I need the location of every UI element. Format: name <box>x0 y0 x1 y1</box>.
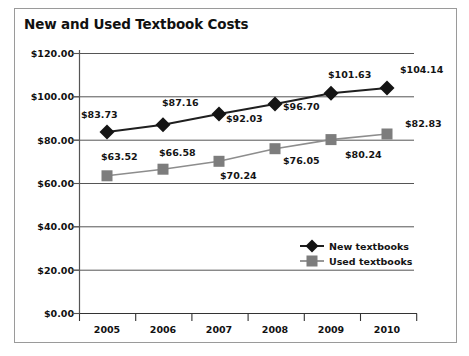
y-axis-tick-label: $40.00 <box>16 221 74 232</box>
y-axis-tick-label: $60.00 <box>16 178 74 189</box>
data-label-used-2009: $80.24 <box>345 149 382 160</box>
x-axis-tick-label: 2007 <box>191 324 247 335</box>
chart-title: New and Used Textbook Costs <box>24 16 249 32</box>
x-axis-tick-label: 2008 <box>247 324 303 335</box>
y-axis-tick-label: $20.00 <box>16 265 74 276</box>
y-axis-tick-label: $100.00 <box>16 91 74 102</box>
data-label-used-2006: $66.58 <box>159 147 196 158</box>
legend-label-used-textbooks: Used textbooks <box>329 256 412 267</box>
data-label-used-2007: $70.24 <box>220 170 257 181</box>
chart-figure: New and Used Textbook Costs $120.00 $100… <box>0 0 469 356</box>
data-label-used-2008: $76.05 <box>283 155 320 166</box>
data-label-used-2005: $63.52 <box>101 151 138 162</box>
data-label-new-2007: $92.03 <box>226 113 263 124</box>
x-axis-tick-label: 2006 <box>135 324 191 335</box>
y-axis-tick-label: $120.00 <box>16 48 74 59</box>
legend-label-new-textbooks: New textbooks <box>329 241 409 252</box>
x-axis-tick-label: 2005 <box>79 324 135 335</box>
data-label-new-2005: $83.73 <box>81 109 118 120</box>
data-label-new-2009: $101.63 <box>328 69 371 80</box>
y-axis-tick-label: $0.00 <box>16 308 74 319</box>
x-axis-tick-label: 2010 <box>359 324 415 335</box>
data-label-used-2010: $82.83 <box>405 118 442 129</box>
data-label-new-2006: $87.16 <box>162 97 199 108</box>
y-axis-tick-label: $80.00 <box>16 135 74 146</box>
data-label-new-2010: $104.14 <box>400 64 443 75</box>
data-label-new-2008: $96.70 <box>283 101 320 112</box>
x-axis-tick-label: 2009 <box>303 324 359 335</box>
